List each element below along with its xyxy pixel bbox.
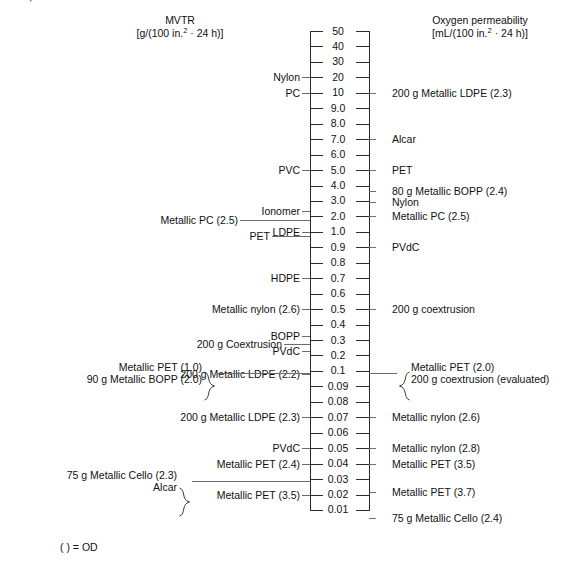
right-leader-line (369, 492, 376, 493)
scale-tick-label: 9.0 (306, 102, 370, 114)
left-entry-label: Metallic PC (2.5) (160, 214, 238, 226)
scale-tick-label: 8.0 (306, 117, 370, 129)
right-axis-units: [mL/(100 in.2 · 24 h)] (390, 27, 562, 40)
left-leader-line (302, 232, 310, 233)
scale-tick-label: 7.0 (306, 133, 370, 145)
left-leader-line (302, 448, 310, 449)
right-brace-group-1 (397, 371, 411, 401)
cropped-page-caption: …ARY, ORIENTED POLYESTER (0, 0, 200, 9)
left-entry-label: Metallic PET (1.0) (119, 361, 202, 373)
left-leader-line (302, 495, 310, 496)
right-entry-label: Nylon (392, 196, 419, 208)
left-leader-line (240, 220, 310, 221)
right-leader-line (369, 309, 376, 310)
left-brace-group-1 (203, 371, 217, 401)
scale-tick-label: 30 (306, 55, 370, 67)
left-axis-units: [g/(100 in.2 · 24 h)] (95, 27, 265, 40)
right-entry-label: 200 g coextrusion (392, 303, 475, 315)
cropped-page-caption-text: …ARY, ORIENTED POLYESTER (0, 0, 149, 2)
scale-tick-label: 0.03 (306, 473, 370, 485)
right-entry-label: 200 g coextrusion (evaluated) (411, 373, 549, 385)
right-axis-heading: Oxygen permeability [mL/(100 in.2 · 24 h… (390, 14, 562, 40)
right-leader-line (369, 202, 376, 203)
right-leader-line (369, 247, 376, 248)
right-axis-title: Oxygen permeability (390, 14, 562, 27)
right-leader-line (369, 139, 376, 140)
scale-tick-label: 0.08 (306, 395, 370, 407)
scale-tick-label: 0.04 (306, 457, 370, 469)
right-entry-label: PVdC (392, 241, 419, 253)
scale-tick-label: 5.0 (306, 164, 370, 176)
left-entry-label: PVC (278, 164, 300, 176)
right-leader-line (369, 170, 376, 171)
right-entry-label: Alcar (392, 133, 416, 145)
right-leader-line (369, 518, 376, 519)
scale-tick-label: 0.01 (306, 503, 370, 515)
right-leader-line (369, 93, 376, 94)
scale-tick-label: 1.0 (306, 225, 370, 237)
scale-tick-label: 10 (306, 86, 370, 98)
right-entry-label: Metallic nylon (2.8) (392, 442, 480, 454)
right-leader-line (369, 464, 376, 465)
scale-tick-label: 4.0 (306, 179, 370, 191)
left-brace-leader-2 (192, 481, 310, 482)
left-brace-group-2 (178, 487, 192, 517)
scale-tick-label: 3.0 (306, 194, 370, 206)
right-entry-label: Metallic PET (3.5) (392, 458, 475, 470)
left-leader-line (302, 278, 310, 279)
left-entry-label: Nylon (273, 71, 300, 83)
scale-tick-label: 20 (306, 71, 370, 83)
left-axis-units-prefix: [g/(100 in. (136, 27, 183, 39)
left-axis-heading: MVTR [g/(100 in.2 · 24 h)] (95, 14, 265, 40)
scale-tick-label: 0.09 (306, 380, 370, 392)
scale-tick-label: 0.3 (306, 334, 370, 346)
left-entry-label: HDPE (271, 272, 300, 284)
right-axis-units-prefix: [mL/(100 in. (432, 27, 487, 39)
right-entry-label: PET (392, 164, 412, 176)
right-entry-label: Metallic PET (2.0) (411, 361, 494, 373)
left-entry-label: 200 g Metallic LDPE (2.3) (180, 411, 300, 423)
left-leader-line (302, 93, 310, 94)
left-entry-label: PET (250, 230, 270, 242)
left-leader-line (302, 77, 310, 78)
left-entry-label: PVdC (273, 345, 300, 357)
scale-tick-label: 0.9 (306, 241, 370, 253)
scale-tick-label: 0.05 (306, 442, 370, 454)
scale-tick-label: 0.1 (306, 364, 370, 376)
left-leader-line (302, 464, 310, 465)
left-leader-line (302, 417, 310, 418)
left-entry-label: 200 g Coextrusion (197, 338, 282, 350)
left-entry-label: Metallic PET (2.4) (217, 458, 300, 470)
left-entry-label: 90 g Metallic BOPP (2.0) (87, 373, 202, 385)
scale-tick-label: 0.06 (306, 426, 370, 438)
left-entry-label: PVdC (273, 442, 300, 454)
scale-tick-label: 2.0 (306, 210, 370, 222)
left-axis-title: MVTR (95, 14, 265, 27)
scale-tick-label: 0.4 (306, 318, 370, 330)
scale-tick-label: 0.8 (306, 256, 370, 268)
left-axis-units-suffix: · 24 h)] (187, 27, 223, 39)
right-entry-label: 75 g Metallic Cello (2.4) (392, 512, 502, 524)
right-leader-line (369, 448, 376, 449)
right-entry-label: 80 g Metallic BOPP (2.4) (392, 185, 507, 197)
figure-canvas: …ARY, ORIENTED POLYESTER MVTR [g/(100 in… (0, 0, 562, 571)
right-entry-label: Metallic nylon (2.6) (392, 411, 480, 423)
right-leader-line (369, 417, 376, 418)
scale-tick-label: 0.7 (306, 272, 370, 284)
left-leader-line (302, 336, 310, 337)
scale-tick-label: 0.07 (306, 411, 370, 423)
left-leader-line (302, 374, 310, 375)
scale-tick-label: 40 (306, 40, 370, 52)
scale-tick-label: 0.02 (306, 488, 370, 500)
scale-tick-label: 0.6 (306, 287, 370, 299)
left-entry-label: Metallic PET (3.5) (217, 489, 300, 501)
left-entry-label: Metallic nylon (2.6) (212, 303, 300, 315)
right-leader-line (369, 216, 376, 217)
left-brace-leader-1 (217, 373, 310, 374)
left-entry-label: Ionomer (261, 205, 300, 217)
left-leader-line (302, 351, 310, 352)
scale-tick-label: 0.5 (306, 303, 370, 315)
right-brace-leader-1 (369, 373, 397, 374)
right-entry-label: Metallic PC (2.5) (392, 210, 470, 222)
left-leader-line (302, 170, 310, 171)
